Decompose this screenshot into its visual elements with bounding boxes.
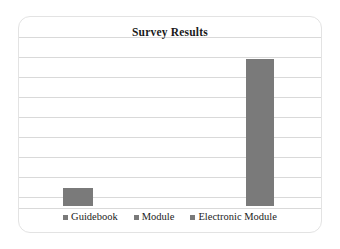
legend-label: Guidebook — [71, 212, 118, 223]
legend-label: Module — [142, 212, 175, 223]
chart-card: Survey Results Guidebook Module Electron… — [18, 16, 322, 233]
legend-item-module[interactable]: Module — [134, 212, 175, 223]
legend-item-electronic-module[interactable]: Electronic Module — [190, 212, 276, 223]
legend-swatch-icon — [190, 215, 195, 220]
legend-item-guidebook[interactable]: Guidebook — [63, 212, 118, 223]
legend-swatch-icon — [63, 215, 68, 220]
legend-label: Electronic Module — [198, 212, 276, 223]
chart-title: Survey Results — [19, 26, 321, 38]
bar-guidebook[interactable] — [63, 188, 93, 206]
legend-swatch-icon — [134, 215, 139, 220]
plot-area — [19, 17, 321, 232]
bar-electronic-module[interactable] — [246, 59, 274, 206]
chart-legend: Guidebook Module Electronic Module — [19, 209, 321, 226]
